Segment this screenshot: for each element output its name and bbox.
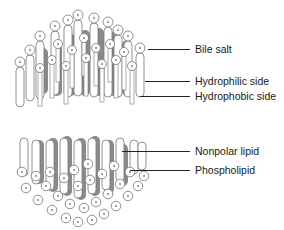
bile-salt-label: Bile salt	[195, 43, 232, 55]
hydrophilic-side-leader-line	[145, 81, 190, 82]
hydrophilic-side-label: Hydrophilic side	[195, 75, 269, 87]
phospholipid-cluster	[17, 136, 149, 227]
hydrophobic-side-leader-line	[140, 96, 190, 97]
micelle-diagram	[0, 0, 284, 230]
phospholipid-leader-line	[130, 170, 190, 171]
bile-salt-leader-line	[148, 49, 190, 50]
hydrophobic-side-label: Hydrophobic side	[195, 90, 276, 102]
nonpolar-lipid-leader-line	[122, 151, 190, 152]
nonpolar-lipid-label: Nonpolar lipid	[195, 145, 259, 157]
phospholipid-label: Phospholipid	[195, 164, 255, 176]
bile-salt-cluster	[15, 10, 145, 107]
